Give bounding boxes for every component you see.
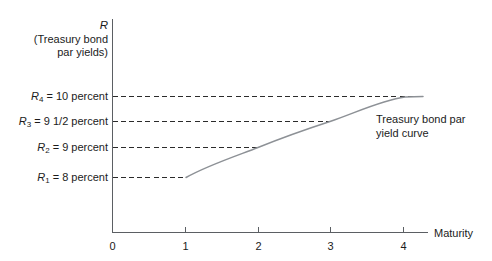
y-axis-title-symbol: R	[100, 19, 108, 31]
x-tick-label-1: 1	[176, 240, 196, 252]
rate-label-r1-text: = 8 percent	[50, 171, 108, 183]
rate-label-r2-subscript: 2	[45, 146, 49, 155]
rate-label-r2: R2 = 9 percent	[8, 141, 108, 156]
rate-label-r3: R3 = 9 1/2 percent	[8, 115, 108, 130]
yield-curve-figure: R (Treasury bond par yields) R4 = 10 per…	[0, 0, 492, 261]
curve-annotation-line2: yield curve	[376, 127, 429, 139]
rate-label-r1-symbol: R	[37, 171, 45, 183]
curve-annotation-line1: Treasury bond par	[376, 113, 465, 125]
rate-label-r2-symbol: R	[37, 141, 45, 153]
rate-label-r3-symbol: R	[19, 115, 27, 127]
x-tick-label-3: 3	[321, 240, 341, 252]
x-axis-title: Maturity	[434, 227, 473, 239]
y-axis-title: R (Treasury bond par yields)	[10, 19, 108, 60]
x-tick-label-4: 4	[394, 240, 414, 252]
rate-label-r1-subscript: 1	[45, 176, 49, 185]
curve-annotation: Treasury bond par yield curve	[376, 112, 465, 140]
y-axis-title-line2: (Treasury bond	[34, 33, 108, 45]
rate-label-r4-symbol: R	[31, 90, 39, 102]
rate-label-r1: R1 = 8 percent	[8, 171, 108, 186]
y-axis-title-line3: par yields)	[57, 46, 108, 58]
rate-label-r3-subscript: 3	[27, 120, 31, 129]
rate-label-r4-text: = 10 percent	[43, 90, 108, 102]
x-tick-label-2: 2	[249, 240, 269, 252]
rate-label-r4-subscript: 4	[39, 95, 43, 104]
x-tick-label-0: 0	[103, 240, 123, 252]
rate-label-r4: R4 = 10 percent	[8, 90, 108, 105]
rate-label-r2-text: = 9 percent	[50, 141, 108, 153]
rate-label-r3-text: = 9 1/2 percent	[31, 115, 108, 127]
